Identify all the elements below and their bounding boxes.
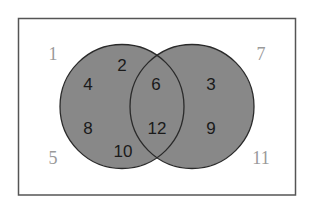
set-b-number-9: 9 (206, 119, 215, 138)
intersection-number-12: 12 (148, 119, 167, 138)
set-a-number-8: 8 (83, 119, 92, 138)
set-a-number-10: 10 (114, 142, 133, 161)
intersection-number-6: 6 (151, 75, 160, 94)
venn-diagram: 1 5 7 11 2 4 8 10 6 12 3 9 (0, 0, 314, 208)
outside-number-11: 11 (252, 148, 269, 168)
outside-number-7: 7 (257, 44, 266, 64)
outside-number-1: 1 (49, 44, 58, 64)
outside-number-5: 5 (49, 148, 58, 168)
set-b-number-3: 3 (206, 75, 215, 94)
set-a-number-4: 4 (83, 75, 92, 94)
set-a-number-2: 2 (117, 56, 126, 75)
